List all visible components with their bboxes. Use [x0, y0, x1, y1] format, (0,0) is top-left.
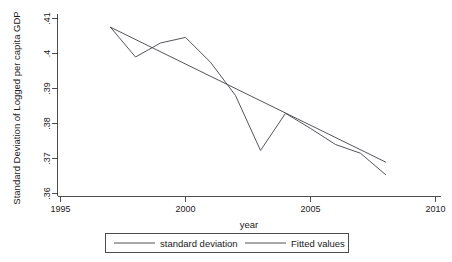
y-tick-label: .4	[42, 50, 52, 58]
legend-label-fitted-values: Fitted values	[291, 238, 345, 249]
x-tick-label: 2005	[300, 204, 320, 214]
chart-legend: standard deviation Fitted values	[106, 234, 349, 253]
x-axis-title: year	[240, 219, 258, 230]
y-tick-label: .39	[42, 82, 52, 95]
x-tick-label: 2000	[175, 204, 195, 214]
x-tick-label: 2010	[425, 204, 445, 214]
x-tick-label: 1995	[50, 204, 70, 214]
chart-figure: .41 .4 .39 .38 .37 .36 1995 2000 2005 20…	[0, 0, 452, 262]
chart-canvas: .41 .4 .39 .38 .37 .36 1995 2000 2005 20…	[0, 0, 452, 262]
legend-label-standard-deviation: standard deviation	[160, 238, 238, 249]
series-fitted-values	[111, 27, 386, 162]
y-tick-label: .36	[42, 187, 52, 200]
y-tick-label: .37	[42, 152, 52, 165]
x-axis-ticks: 1995 2000 2005 2010	[50, 197, 445, 215]
y-tick-label: .41	[42, 12, 52, 25]
y-axis-title: Standard Deviation of Logged per capita …	[11, 11, 22, 204]
series-standard-deviation	[111, 27, 386, 174]
y-axis-ticks: .41 .4 .39 .38 .37 .36	[42, 12, 57, 200]
y-tick-label: .38	[42, 117, 52, 130]
